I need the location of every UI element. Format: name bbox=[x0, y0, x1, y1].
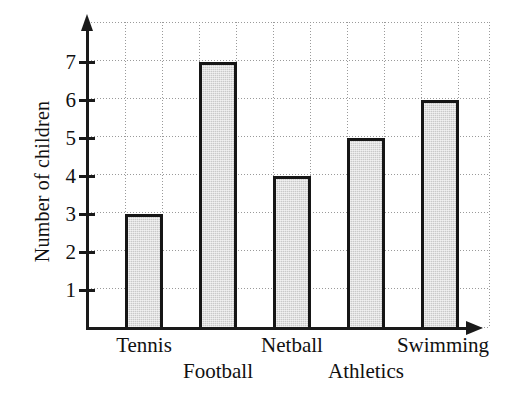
y-axis-tick-label: 3 bbox=[50, 204, 76, 225]
x-axis-label-tennis: Tennis bbox=[84, 334, 204, 356]
y-axis-tick-label: 5 bbox=[50, 128, 76, 149]
gridline-horizontal bbox=[88, 22, 490, 23]
y-axis-tick bbox=[79, 61, 95, 64]
y-axis-tick bbox=[79, 99, 95, 102]
y-axis-tick-label: 7 bbox=[50, 52, 76, 73]
y-axis-tick-label: 1 bbox=[50, 280, 76, 301]
y-axis-line bbox=[86, 28, 89, 330]
gridline-horizontal bbox=[88, 98, 490, 99]
y-axis-tick bbox=[79, 137, 95, 140]
x-axis-label-swimming: Swimming bbox=[378, 334, 508, 356]
y-axis-tick bbox=[79, 251, 95, 254]
x-axis-label-football: Football bbox=[158, 360, 278, 382]
y-axis-arrow-icon bbox=[81, 14, 93, 31]
bar-netball bbox=[273, 176, 311, 330]
y-axis-title: Number of children bbox=[31, 67, 54, 297]
bar-swimming bbox=[421, 100, 459, 330]
y-axis-tick-label: 6 bbox=[50, 90, 76, 111]
y-axis-tick-label: 2 bbox=[50, 242, 76, 263]
y-axis-tick bbox=[79, 289, 95, 292]
bar-football bbox=[199, 62, 237, 330]
x-axis-label-netball: Netball bbox=[232, 334, 352, 356]
x-axis-line bbox=[86, 327, 469, 330]
gridline-vertical bbox=[489, 22, 490, 328]
bar-tennis bbox=[125, 214, 163, 330]
gridline-horizontal bbox=[88, 60, 490, 61]
y-axis-tick-label: 4 bbox=[50, 166, 76, 187]
bar-chart: 1 2 3 4 5 6 7 Number of children Tennis … bbox=[0, 0, 513, 397]
y-axis-tick bbox=[79, 175, 95, 178]
y-axis-tick bbox=[79, 213, 95, 216]
bar-athletics bbox=[347, 138, 385, 330]
x-axis-label-athletics: Athletics bbox=[306, 360, 426, 382]
